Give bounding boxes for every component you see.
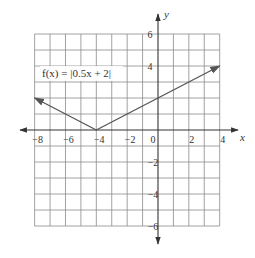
function-label: f(x) = |0.5x + 2| (42, 67, 111, 80)
x-tick-label: −2 (125, 134, 136, 145)
x-tick-label: 4 (220, 134, 225, 145)
x-tick-label: 0 (151, 134, 156, 145)
x-tick-label: −6 (63, 134, 74, 145)
function-graph: x y −8−6−4−202464−2−4−6 f(x) = |0.5x + 2… (0, 0, 255, 258)
y-tick-label: 6 (148, 29, 153, 40)
y-tick-label: −2 (148, 157, 159, 168)
y-axis-label: y (163, 8, 169, 20)
y-tick-label: 4 (148, 61, 153, 72)
y-tick-label: −6 (148, 221, 159, 232)
graph-canvas: x y −8−6−4−202464−2−4−6 f(x) = |0.5x + 2… (0, 0, 255, 258)
x-tick-label: −4 (94, 134, 105, 145)
y-tick-label: −4 (148, 189, 159, 200)
x-tick-label: −8 (32, 134, 43, 145)
x-tick-label: 2 (189, 134, 194, 145)
axes: x y (20, 8, 245, 244)
x-axis-label: x (239, 131, 245, 143)
